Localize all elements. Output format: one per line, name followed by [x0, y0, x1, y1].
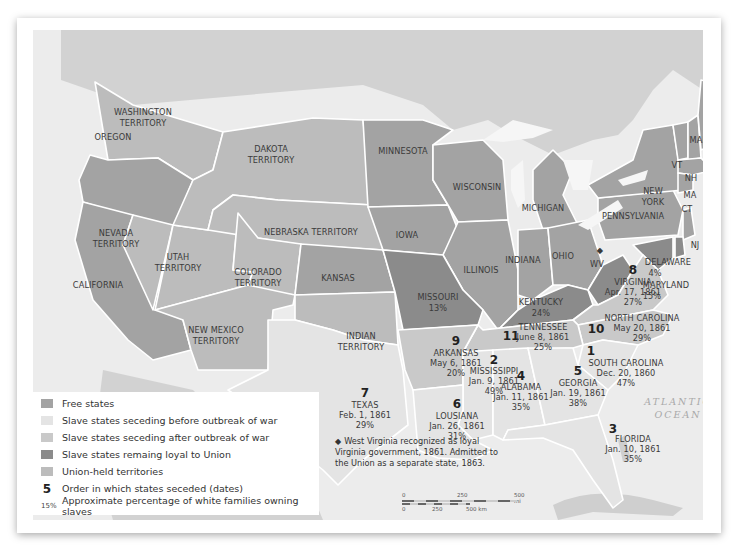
label-nevada: NEVADA [99, 228, 134, 238]
label-kentucky: KENTUCKY [519, 297, 564, 307]
label-texas-date: Feb. 1, 1861 [339, 410, 391, 420]
label-florida: FLORIDA [615, 434, 651, 444]
label-tennessee-pct: 25% [534, 342, 553, 352]
label-vermont: VT [672, 160, 684, 170]
order-mississippi: 2 [490, 353, 498, 367]
label-new-mexico-2: TERRITORY [192, 336, 240, 346]
label-missouri: MISSOURI [417, 292, 458, 302]
legend-label: Slave states seceding after outbreak of … [62, 432, 269, 443]
label-colorado-2: TERRITORY [234, 278, 282, 288]
label-new-york-2: YORK [641, 197, 665, 207]
swatch-free-icon [41, 399, 53, 408]
order-texas: 7 [361, 386, 369, 400]
label-dakota-2: TERRITORY [247, 155, 295, 165]
label-new-mexico: NEW MEXICO [188, 325, 243, 335]
west-virginia-note: ◆West Virginia recognized as loyal Virgi… [335, 436, 500, 469]
label-georgia-date: Jan. 19, 1861 [549, 388, 606, 398]
label-louisiana-date: Jan. 26, 1861 [428, 421, 485, 431]
kansas-state [295, 244, 395, 295]
label-virginia-pct: 27% [624, 297, 643, 307]
label-mississippi: MISSISSIPPI [470, 366, 519, 376]
legend-label: Slave states remaing loyal to Union [62, 449, 231, 460]
legend-label: Order in which states seceded (dates) [62, 483, 243, 494]
label-nebraska: NEBRASKA TERRITORY [264, 227, 359, 237]
label-atlantic: ATLANTIC [643, 396, 703, 407]
label-south-carolina-pct: 47% [617, 378, 636, 388]
legend-label: Free states [62, 398, 114, 409]
label-utah: UTAH [167, 252, 190, 262]
label-missouri-pct: 13% [429, 303, 448, 313]
label-kansas: KANSAS [321, 273, 355, 283]
scale-km-500: 500 km [466, 506, 487, 512]
label-maine: MAINE [690, 135, 703, 145]
label-tennessee-date: June 8, 1861 [516, 332, 570, 342]
delaware-state [675, 237, 685, 258]
label-ocean: OCEAN [654, 409, 701, 420]
order-louisiana: 6 [453, 397, 461, 411]
note-text: West Virginia recognized as loyal Virgin… [335, 436, 498, 468]
label-delaware: DELAWARE [645, 257, 691, 267]
label-indian-2: TERRITORY [337, 342, 385, 352]
label-arkansas: ARKANSAS [433, 348, 478, 358]
scale-km-250: 250 [432, 506, 443, 512]
label-michigan: MICHIGAN [522, 203, 565, 213]
label-florida-date: Jan. 10, 1861 [604, 444, 661, 454]
swatch-seceding-after-icon [41, 433, 53, 442]
label-georgia-pct: 38% [569, 398, 588, 408]
label-dakota: DAKOTA [254, 144, 288, 154]
pct-symbol: 15% [41, 502, 55, 510]
label-south-carolina-date: Dec. 20, 1860 [597, 368, 656, 378]
label-arkansas-pct: 20% [447, 368, 466, 378]
scale-mi-500: 500 mi [514, 492, 532, 504]
scale-km-bar [402, 503, 470, 505]
legend-label: Slave states seceding before outbreak of… [62, 415, 277, 426]
order-symbol: 5 [41, 482, 53, 496]
label-connecticut: CT [682, 204, 694, 214]
label-texas-pct: 29% [356, 420, 375, 430]
label-indiana: INDIANA [505, 255, 541, 265]
legend-item-seceding-before: Slave states seceding before outbreak of… [41, 413, 277, 428]
order-alabama: 4 [517, 369, 525, 383]
scale-mi-250: 250 [457, 492, 468, 498]
scale-mi-0: 0 [402, 492, 406, 498]
swatch-loyal-icon [41, 450, 53, 459]
label-ohio: OHIO [552, 251, 574, 261]
label-alabama-pct: 35% [512, 402, 531, 412]
legend-label: Approximate percentage of white families… [62, 495, 319, 517]
label-north-carolina-date: May 20, 1861 [613, 323, 670, 333]
label-alabama: ALABAMA [501, 382, 542, 392]
label-north-carolina-pct: 29% [633, 333, 652, 343]
wv-marker-icon: ◆ [597, 245, 604, 255]
label-louisiana: LOUSIANA [436, 411, 479, 421]
label-illinois: ILLINOIS [464, 265, 499, 275]
order-georgia: 5 [574, 364, 582, 378]
label-alabama-date: Jan. 11, 1861 [492, 392, 549, 402]
label-utah-2: TERRITORY [154, 263, 202, 273]
order-south-carolina: 1 [587, 344, 595, 358]
label-tennessee: TENNESSEE [517, 322, 567, 332]
label-new-hampshire: NH [685, 173, 697, 183]
label-colorado: COLORADO [234, 267, 281, 277]
label-washington: WASHINGTON [114, 107, 172, 117]
label-california: CALIFORNIA [73, 280, 124, 290]
label-minnesota: MINNESOTA [378, 146, 428, 156]
scale-km-0: 0 [402, 506, 406, 512]
scale-bar: 0 250 500 mi 0 250 500 km [402, 492, 532, 518]
swatch-territories-icon [41, 467, 53, 476]
legend-item-loyal: Slave states remaing loyal to Union [41, 447, 231, 462]
label-new-york: NEW [643, 186, 663, 196]
legend-item-pct: 15% Approximate percentage of white fami… [41, 498, 319, 513]
scale-mi-bar [402, 500, 517, 502]
label-oregon: OREGON [95, 132, 132, 142]
legend-item-territories: Union-held territories [41, 464, 163, 479]
diamond-icon: ◆ [335, 437, 341, 446]
label-north-carolina: NORTH CAROLINA [605, 313, 680, 323]
order-virginia: 8 [629, 263, 637, 277]
label-nevada-2: TERRITORY [92, 239, 140, 249]
label-massachusetts: MA [684, 190, 697, 200]
label-pennsylvania: PENNSYLVANIA [602, 211, 665, 221]
label-virginia: VIRGINIA [614, 277, 652, 287]
swatch-seceding-before-icon [41, 416, 53, 425]
label-florida-pct: 35% [624, 454, 643, 464]
order-arkansas: 9 [452, 334, 460, 348]
